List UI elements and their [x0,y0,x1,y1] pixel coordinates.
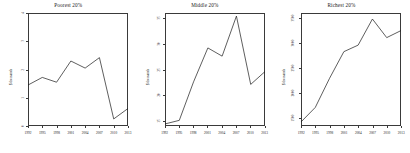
y-tick-mark [299,118,301,119]
y-axis-ticks: 15002000250030003500 [273,13,299,126]
y-tick-label: 2000 [290,91,297,95]
x-tick-mark [42,126,43,128]
y-tick-mark [26,70,28,71]
y-tick-label: 35 [157,16,160,20]
y-tick-label: 0 [22,124,24,128]
x-tick-label: 2004 [355,131,362,135]
chart-panel-poorest: Poorest 20% $ thousands 01234 1992199519… [0,0,137,153]
y-tick-mark [163,95,165,96]
x-tick-label: 2013 [398,131,405,135]
x-tick-label: 2013 [261,131,268,135]
x-tick-mark [301,126,302,128]
x-tick-label: 2007 [233,131,240,135]
x-tick-mark [57,126,58,128]
y-tick-mark [26,98,28,99]
x-tick-mark [222,126,223,128]
x-tick-mark [358,126,359,128]
x-tick-label: 1998 [190,131,197,135]
panel-title: Richest 20% [273,2,410,8]
x-tick-label: 1995 [312,131,319,135]
x-tick-label: 1998 [326,131,333,135]
y-tick-label: 30 [157,42,160,46]
x-tick-label: 1992 [298,131,305,135]
y-axis-ticks: 01234 [0,13,26,126]
y-tick-label: 1500 [290,116,297,120]
x-tick-mark [344,126,345,128]
data-line [165,13,265,126]
y-tick-label: 2 [22,68,24,72]
y-tick-label: 3000 [290,41,297,45]
x-tick-label: 2010 [384,131,391,135]
x-tick-mark [114,126,115,128]
panel-title: Poorest 20% [0,2,137,8]
x-tick-mark [330,126,331,128]
x-tick-label: 1995 [175,131,182,135]
y-tick-mark [299,68,301,69]
x-tick-label: 2010 [247,131,254,135]
y-tick-mark [26,126,28,127]
x-tick-label: 2004 [218,131,225,135]
plot-area [28,13,128,126]
x-tick-mark [207,126,208,128]
x-tick-mark [236,126,237,128]
chart-panel-middle: Middle 20% $ thousands 1520253035 199219… [137,0,274,153]
chart-panel-richest: Richest 20% $ thousands 1500200025003000… [273,0,410,153]
x-tick-label: 2007 [369,131,376,135]
x-tick-mark [128,126,129,128]
x-tick-label: 1998 [53,131,60,135]
y-tick-label: 2500 [290,66,297,70]
x-tick-label: 2001 [67,131,74,135]
y-tick-mark [163,44,165,45]
panel-title: Middle 20% [137,2,274,8]
x-tick-label: 2007 [96,131,103,135]
x-tick-mark [179,126,180,128]
y-tick-label: 25 [157,68,160,72]
data-line [28,13,128,126]
plot-area [301,13,401,126]
x-tick-mark [373,126,374,128]
x-tick-mark [315,126,316,128]
x-tick-mark [401,126,402,128]
y-tick-label: 3 [22,39,24,43]
y-axis-ticks: 1520253035 [137,13,163,126]
x-tick-label: 2001 [341,131,348,135]
y-tick-label: 20 [157,93,160,97]
x-tick-mark [85,126,86,128]
x-tick-label: 2001 [204,131,211,135]
x-axis-ticks: 19921995199820012004200720102013 [28,126,128,140]
y-tick-label: 15 [157,119,160,123]
y-tick-label: 3500 [290,16,297,20]
y-tick-mark [26,41,28,42]
x-tick-label: 1995 [39,131,46,135]
x-tick-label: 2010 [110,131,117,135]
x-tick-mark [250,126,251,128]
y-tick-mark [299,43,301,44]
y-tick-mark [299,93,301,94]
x-tick-label: 1992 [161,131,168,135]
x-tick-mark [165,126,166,128]
plot-area [165,13,265,126]
x-axis-ticks: 19921995199820012004200720102013 [301,126,401,140]
x-tick-mark [99,126,100,128]
x-tick-label: 1992 [25,131,32,135]
x-tick-label: 2004 [82,131,89,135]
data-line [301,13,401,126]
x-tick-mark [387,126,388,128]
y-tick-mark [26,13,28,14]
y-tick-label: 1 [22,96,24,100]
y-tick-mark [163,70,165,71]
y-tick-mark [299,18,301,19]
x-axis-ticks: 19921995199820012004200720102013 [165,126,265,140]
y-tick-mark [163,18,165,19]
x-tick-mark [28,126,29,128]
x-tick-mark [265,126,266,128]
y-tick-mark [163,121,165,122]
x-tick-label: 2013 [125,131,132,135]
small-multiples-line-chart: Poorest 20% $ thousands 01234 1992199519… [0,0,410,153]
y-tick-label: 4 [22,11,24,15]
x-tick-mark [193,126,194,128]
x-tick-mark [71,126,72,128]
